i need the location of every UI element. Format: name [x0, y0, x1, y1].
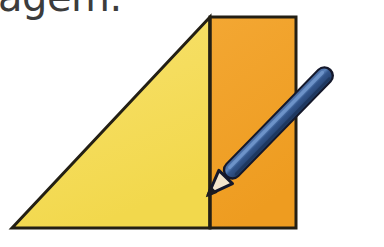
yellow-right-triangle	[12, 17, 210, 228]
illustration-canvas: agem.	[0, 0, 384, 247]
ramp-with-pencil-figure	[0, 0, 384, 247]
